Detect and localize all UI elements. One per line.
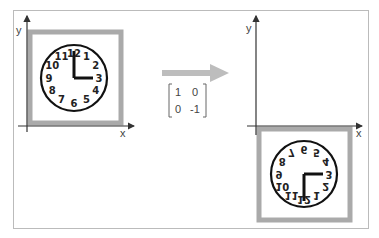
matrix-a21: 0 xyxy=(175,103,181,115)
clock-number: 11 xyxy=(285,190,299,201)
matrix-a22: -1 xyxy=(190,103,200,115)
clock-number: 11 xyxy=(55,51,69,62)
clock-number: 4 xyxy=(92,85,99,96)
clock-number: 2 xyxy=(92,60,99,71)
clock-number: 12 xyxy=(297,194,311,205)
clock-number: 5 xyxy=(313,147,320,158)
transform: 1 0 0 -1 xyxy=(162,64,229,117)
clock-number: 8 xyxy=(49,85,56,96)
y-axis-label: y xyxy=(16,24,22,36)
clock-number: 1 xyxy=(83,51,90,62)
clock-original: 121234567891011 xyxy=(41,45,107,111)
x-axis-label: x xyxy=(120,127,126,139)
x-axis-label: x xyxy=(356,127,362,139)
clock-number: 7 xyxy=(288,147,295,158)
matrix-a12: 0 xyxy=(192,86,198,98)
left-panel: 121234567891011 y x xyxy=(16,16,134,139)
arrow-right-icon xyxy=(210,64,229,82)
clock-number: 4 xyxy=(322,156,329,167)
clock-number: 1 xyxy=(313,190,320,201)
matrix-a11: 1 xyxy=(175,86,181,98)
clock-number: 6 xyxy=(301,144,308,155)
clock-number: 9 xyxy=(276,169,283,180)
clock-number: 3 xyxy=(326,169,333,180)
clock-number: 6 xyxy=(71,98,78,109)
right-panel: 121234567891011 y x xyxy=(246,16,362,220)
clock-number: 9 xyxy=(46,73,53,84)
clock-number: 7 xyxy=(58,94,65,105)
reflection-diagram: 121234567891011 y x 1 0 0 -1 12123456789… xyxy=(0,0,379,238)
clock-number: 3 xyxy=(96,73,103,84)
y-axis-label: y xyxy=(246,22,252,34)
clock-number: 2 xyxy=(322,181,329,192)
clock-number: 5 xyxy=(83,94,90,105)
clock-number: 12 xyxy=(67,48,81,59)
matrix: 1 0 0 -1 xyxy=(169,84,206,117)
arrow-shaft xyxy=(162,70,212,76)
clock-number: 8 xyxy=(279,156,286,167)
clock-reflected: 121234567891011 xyxy=(271,141,337,207)
